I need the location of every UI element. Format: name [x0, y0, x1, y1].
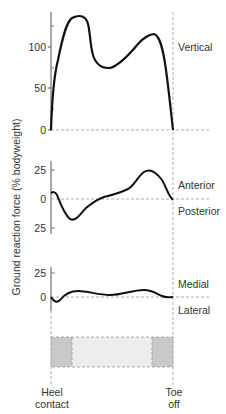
- ml-panel: 25 0 Medial Lateral: [34, 267, 210, 316]
- stance-phase-bar: [51, 337, 173, 367]
- medial-label: Medial: [178, 278, 209, 290]
- heel-contact-label-2: contact: [35, 398, 69, 410]
- tick-ap-0: 0: [40, 193, 46, 205]
- posterior-label: Posterior: [178, 205, 221, 217]
- lateral-label: Lateral: [178, 304, 210, 316]
- anterior-label: Anterior: [178, 179, 215, 191]
- tick-100: 100: [28, 41, 46, 53]
- toe-off-label-2: off: [168, 398, 180, 410]
- ap-force-curve: [51, 170, 173, 219]
- tick-ap-neg25: 25: [34, 222, 46, 234]
- tick-0: 0: [40, 124, 46, 136]
- y-axis-label: Ground reaction force (% bodyweight): [10, 119, 22, 296]
- tick-ml-25: 25: [34, 267, 46, 279]
- tick-50: 50: [34, 82, 46, 94]
- tick-ap-25: 25: [34, 164, 46, 176]
- ml-force-curve: [51, 290, 173, 302]
- ap-panel: 25 0 25 Anterior Posterior: [34, 161, 220, 234]
- double-support-terminal: [152, 337, 173, 367]
- heel-contact-label-1: Heel: [41, 386, 63, 398]
- vertical-panel: 0 50 100 Vertical: [28, 12, 212, 136]
- vertical-force-curve: [51, 16, 173, 130]
- vertical-label: Vertical: [178, 41, 212, 53]
- single-support: [72, 337, 152, 367]
- gait-force-figure: Ground reaction force (% bodyweight) 0 5…: [0, 0, 226, 414]
- double-support-initial: [51, 337, 72, 367]
- tick-ml-0: 0: [40, 291, 46, 303]
- toe-off-label-1: Toe: [166, 386, 183, 398]
